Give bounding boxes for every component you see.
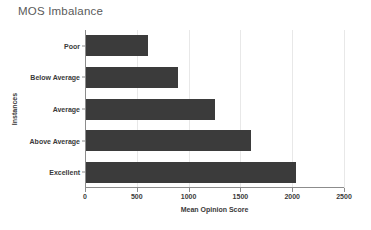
x-axis-line [85, 187, 344, 188]
bar-row[interactable]: Excellent [85, 162, 296, 183]
bar[interactable] [85, 67, 178, 88]
chart-title: MOS Imbalance [18, 5, 103, 17]
y-tick-label: Poor [64, 42, 80, 49]
x-tick-mark [85, 188, 86, 192]
y-axis-title: Instances [11, 93, 18, 125]
bar-row[interactable]: Below Average [85, 67, 178, 88]
plot-area: PoorBelow AverageAverageAbove AverageExc… [85, 30, 344, 188]
y-tick-label: Below Average [30, 74, 80, 81]
bar[interactable] [85, 35, 148, 56]
y-tick-label: Above Average [30, 137, 80, 144]
x-axis-title: Mean Opinion Score [85, 206, 344, 213]
x-tick-mark [240, 188, 241, 192]
x-tick-label: 2000 [284, 193, 300, 200]
x-tick-mark [189, 188, 190, 192]
bar[interactable] [85, 162, 296, 183]
x-tick-label: 1500 [233, 193, 249, 200]
y-tick-label: Average [53, 106, 80, 113]
bar[interactable] [85, 99, 215, 120]
x-tick-label: 1000 [181, 193, 197, 200]
x-tick-mark [344, 188, 345, 192]
bar[interactable] [85, 130, 251, 151]
bar-row[interactable]: Above Average [85, 130, 251, 151]
x-tick-mark [292, 188, 293, 192]
y-tick-label: Excellent [49, 169, 80, 176]
bar-row[interactable]: Average [85, 99, 215, 120]
x-tick-mark [137, 188, 138, 192]
x-tick-label: 500 [131, 193, 143, 200]
bar-chart: MOS Imbalance Instances Mean Opinion Sco… [0, 0, 371, 230]
x-tick-label: 2500 [336, 193, 352, 200]
y-axis-line [85, 30, 86, 188]
x-tick-label: 0 [83, 193, 87, 200]
gridline [344, 30, 345, 188]
bar-row[interactable]: Poor [85, 35, 148, 56]
